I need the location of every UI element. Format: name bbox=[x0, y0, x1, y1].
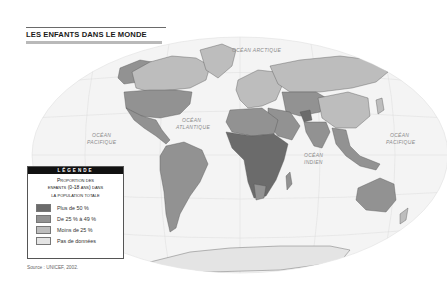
ocean-label-arctic: OCÉAN ARCTIQUE bbox=[232, 47, 281, 53]
ocean-label-pacific-west-1: OCÉAN bbox=[92, 132, 111, 138]
ocean-label-atlantic-1: OCÉAN bbox=[182, 117, 201, 123]
ocean-label-indian-2: INDIEN bbox=[304, 159, 323, 165]
legend-title-line-1: Proportion des bbox=[28, 177, 123, 184]
legend-header: LÉGENDE bbox=[28, 167, 123, 174]
ocean-label-pacific-east-2: PACIFIQUE bbox=[386, 139, 416, 145]
source-note: Source : UNICEF, 2002. bbox=[27, 265, 78, 270]
legend-item-high: Plus de 50 % bbox=[36, 202, 123, 213]
swatch-low bbox=[36, 226, 51, 234]
legend-title-line-3: la population totale bbox=[28, 192, 123, 199]
legend-label-nodata: Pas de données bbox=[57, 238, 96, 244]
ocean-label-pacific-east-1: OCÉAN bbox=[390, 132, 409, 138]
swatch-nodata bbox=[36, 237, 51, 245]
legend: LÉGENDE Proportion des enfants (0-18 ans… bbox=[27, 166, 124, 259]
region-southern-africa bbox=[254, 184, 266, 200]
legend-label-mid: De 25 % à 49 % bbox=[57, 216, 96, 222]
legend-item-mid: De 25 % à 49 % bbox=[36, 213, 123, 224]
ocean-label-atlantic-2: ATLANTIQUE bbox=[175, 124, 210, 130]
ocean-label-indian-1: OCÉAN bbox=[304, 152, 323, 158]
legend-label-high: Plus de 50 % bbox=[57, 205, 89, 211]
swatch-mid bbox=[36, 215, 51, 223]
legend-label-low: Moins de 25 % bbox=[57, 227, 93, 233]
legend-item-nodata: Pas de données bbox=[36, 235, 123, 246]
legend-item-low: Moins de 25 % bbox=[36, 224, 123, 235]
ocean-label-pacific-west-2: PACIFIQUE bbox=[87, 139, 117, 145]
legend-title: Proportion des enfants (0-18 ans) dans l… bbox=[28, 177, 123, 199]
swatch-high bbox=[36, 204, 51, 212]
legend-items: Plus de 50 % De 25 % à 49 % Moins de 25 … bbox=[28, 202, 123, 246]
legend-title-line-2: enfants (0-18 ans) dans bbox=[28, 184, 123, 191]
